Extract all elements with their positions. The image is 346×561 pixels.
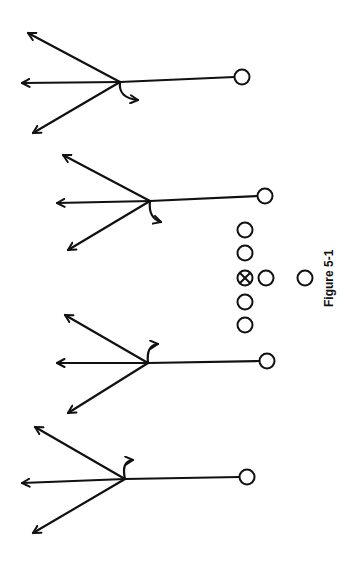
hook-route-arrow (124, 460, 133, 479)
release-stem (150, 196, 258, 201)
corner-route-arrow (68, 363, 148, 413)
lineman-circle (238, 223, 253, 238)
figure-caption: Figure 5-1 (322, 250, 336, 307)
release-stem (120, 77, 235, 82)
post-route-arrow (28, 33, 120, 82)
hook-route-arrow (148, 344, 158, 363)
streak-route-arrow (22, 479, 125, 483)
lineman-circle (238, 318, 253, 333)
route-trees (22, 33, 260, 533)
receiver-3-route-tree (57, 315, 260, 413)
hook-route-arrow (150, 201, 161, 222)
receiver-circle (260, 354, 275, 369)
release-stem (148, 361, 260, 363)
corner-route-arrow (68, 201, 150, 250)
post-route-arrow (35, 427, 125, 479)
play-diagram (0, 0, 346, 561)
lineman-circle (238, 246, 253, 261)
receiver-2-route-tree (57, 155, 258, 250)
post-route-arrow (65, 315, 148, 363)
quarterback-circle (259, 271, 274, 286)
receiver-circle (240, 470, 255, 485)
release-stem (125, 477, 240, 479)
receiver-4-route-tree (22, 427, 240, 533)
receiver-1-route-tree (22, 33, 235, 133)
streak-route-arrow (22, 82, 120, 83)
lineman-circle (238, 295, 253, 310)
corner-route-arrow (33, 82, 120, 133)
hook-route-arrow (120, 82, 138, 100)
running-back-circle (298, 271, 313, 286)
corner-route-arrow (33, 479, 125, 533)
receiver-circle (235, 70, 250, 85)
receiver-circle (258, 189, 273, 204)
streak-route-arrow (57, 201, 150, 203)
players (235, 70, 313, 485)
post-route-arrow (63, 155, 150, 201)
